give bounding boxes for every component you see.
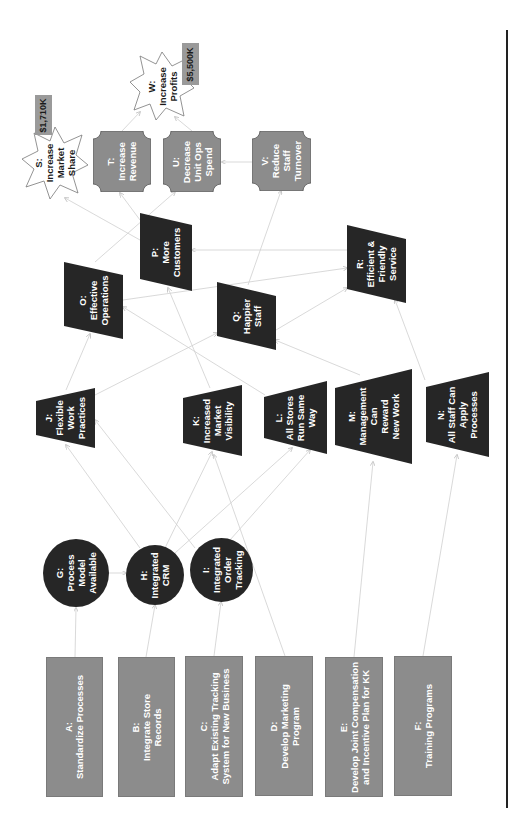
- practice-node-k-label: K: Increased Market Visibility: [191, 398, 235, 442]
- practice-node-j[interactable]: J: Flexible Work Practices: [36, 388, 95, 448]
- capability-node-h-label: H: Integrated CRM: [139, 552, 172, 598]
- outcome-node-v[interactable]: V: Reduce Staff Turnover: [252, 131, 311, 191]
- action-node-d-label: D: Develop Marketing Program: [268, 684, 301, 768]
- goal-w-value-tag: $5,500K: [182, 43, 199, 85]
- goal-s-value-tag: $1,710K: [35, 95, 52, 135]
- effect-node-q-label: Q: Happier Staff: [230, 298, 263, 333]
- practice-node-k[interactable]: K: Increased Market Visibility: [183, 385, 242, 456]
- capability-node-g[interactable]: G: Process Model Available: [43, 539, 109, 607]
- action-node-d[interactable]: D: Develop Marketing Program: [255, 656, 313, 796]
- action-node-f-label: F: Training Programs: [412, 684, 434, 768]
- action-node-e-label: E: Develop Joint Compensation and Incent…: [338, 662, 371, 793]
- practice-node-n[interactable]: N: All Staff Can Apply Processes: [426, 372, 489, 457]
- action-node-c[interactable]: C: Adapt Existing Tracking System for Ne…: [185, 656, 243, 797]
- results-chain-diagram: A: Standardize Processes B: Integrate St…: [0, 0, 514, 823]
- goal-node-w-label: W: Increase Profits: [146, 67, 179, 106]
- effect-node-o-label: O: Effective Operations: [77, 275, 110, 325]
- effect-node-r[interactable]: R: Efficient & Friendly Service: [347, 225, 406, 303]
- effect-node-o[interactable]: O: Effective Operations: [64, 262, 123, 339]
- effect-node-q[interactable]: Q: Happier Staff: [217, 282, 276, 350]
- page-border-line: [506, 30, 508, 808]
- outcome-node-u[interactable]: U: Decrease Unit Ops Spend: [163, 131, 221, 192]
- goal-node-s-label: S: Increase Market Share: [33, 143, 77, 182]
- capability-node-i-label: I: Integrated Order Tracking: [200, 547, 244, 593]
- outcome-node-t-label: T: Increase Revenue: [105, 142, 138, 182]
- outcome-node-v-label: V: Reduce Staff Turnover: [260, 141, 304, 181]
- effect-node-p[interactable]: P: More Customers: [140, 213, 192, 291]
- practice-node-j-label: J: Flexible Work Practices: [43, 397, 87, 439]
- capability-node-g-label: G: Process Model Available: [54, 552, 98, 593]
- goal-node-s[interactable]: S: Increase Market Share: [20, 125, 90, 200]
- action-node-f[interactable]: F: Training Programs: [394, 656, 452, 796]
- capability-node-h[interactable]: H: Integrated CRM: [126, 545, 184, 605]
- practice-node-m[interactable]: M: Management Can Reward New Work: [335, 369, 412, 464]
- action-node-e[interactable]: E: Develop Joint Compensation and Incent…: [325, 657, 383, 797]
- capability-node-i[interactable]: I: Integrated Order Tracking: [190, 538, 253, 602]
- effect-node-r-label: R: Efficient & Friendly Service: [354, 241, 398, 288]
- practice-node-m-label: M: Management Can Reward New Work: [346, 387, 401, 445]
- practice-node-l-label: L: All Stores Run Same Way: [274, 394, 318, 440]
- outcome-node-t[interactable]: T: Increase Revenue: [93, 131, 151, 192]
- practice-node-n-label: N: All Staff Can Apply Processes: [435, 386, 479, 442]
- goal-s-value: $1,710K: [38, 98, 49, 132]
- practice-node-l[interactable]: L: All Stores Run Same Way: [264, 381, 327, 454]
- action-node-a-label: A: Standardize Processes: [64, 675, 86, 779]
- action-node-b[interactable]: B: Integrate Store Records: [118, 657, 175, 797]
- effect-node-p-label: P: More Customers: [150, 227, 183, 277]
- action-node-b-label: B: Integrate Store Records: [130, 693, 163, 760]
- action-node-c-label: C: Adapt Existing Tracking System for Ne…: [198, 668, 231, 784]
- action-node-a[interactable]: A: Standardize Processes: [46, 657, 103, 797]
- goal-w-value: $5,500K: [185, 47, 196, 81]
- outcome-node-u-label: U: Decrease Unit Ops Spend: [170, 140, 214, 182]
